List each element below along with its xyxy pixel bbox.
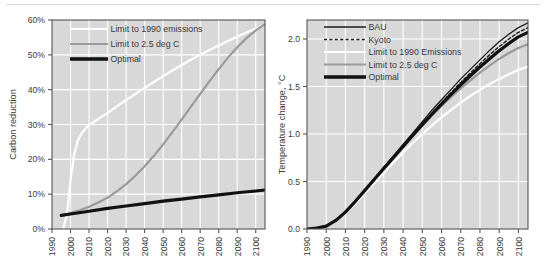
x-tick-label: 2060 <box>177 237 187 256</box>
x-tick-label: 2040 <box>398 237 408 256</box>
x-tick-label: 1990 <box>47 237 57 256</box>
x-tick-label: 2020 <box>360 237 370 256</box>
legend-label: BAU <box>369 22 387 32</box>
x-tick-label: 2070 <box>456 237 466 256</box>
y-tick-label: 0.5 <box>288 177 300 187</box>
carbon-reduction-plot: 1990200020102020203020402050206020702080… <box>0 0 280 277</box>
x-tick-label: 2060 <box>437 237 447 256</box>
y-tick-label: 2.0 <box>288 34 300 44</box>
y-tick-label: 0% <box>33 224 46 234</box>
y-tick-label: 20% <box>28 154 46 164</box>
x-tick-label: 2020 <box>103 237 113 256</box>
y-tick-label: 0.0 <box>288 224 300 234</box>
x-tick-label: 1990 <box>302 237 312 256</box>
x-tick-label: 2010 <box>84 237 94 256</box>
x-tick-label: 2100 <box>251 237 261 256</box>
y-tick-label: 40% <box>28 85 46 95</box>
legend-label: Optimal <box>369 72 399 82</box>
x-tick-label: 2080 <box>475 237 485 256</box>
x-tick-label: 2030 <box>121 237 131 256</box>
temperature-change-plot: 1990200020102020203020402050206020702080… <box>272 0 547 277</box>
x-tick-label: 2080 <box>214 237 224 256</box>
x-tick-label: 2070 <box>196 237 206 256</box>
x-tick-label: 2010 <box>341 237 351 256</box>
x-tick-label: 2100 <box>514 237 524 256</box>
chart-temperature-change: 1990200020102020203020402050206020702080… <box>272 0 547 277</box>
y-tick-label: 30% <box>28 120 46 130</box>
x-tick-label: 2030 <box>379 237 389 256</box>
legend-label: Kyoto <box>369 35 392 45</box>
x-tick-label: 2090 <box>233 237 243 256</box>
y-tick-label: 60% <box>28 15 46 25</box>
x-tick-label: 2040 <box>140 237 150 256</box>
x-tick-label: 2000 <box>322 237 332 256</box>
x-tick-label: 2000 <box>66 237 76 256</box>
y-tick-label: 10% <box>28 189 46 199</box>
y-tick-label: 1.5 <box>288 82 300 92</box>
y-axis-title: Carbon reduction <box>8 89 18 159</box>
legend-label: Limit to 1990 Emissions <box>369 47 462 57</box>
y-tick-label: 1.0 <box>288 129 300 139</box>
x-tick-label: 2090 <box>495 237 505 256</box>
legend-label: Limit to 1990 emissions <box>111 24 204 34</box>
legend-label: Limit to 2.5 deg C <box>111 39 181 49</box>
x-tick-label: 2050 <box>159 237 169 256</box>
x-tick-label: 2050 <box>418 237 428 256</box>
y-axis-title: Temperature change, °C <box>277 74 287 174</box>
y-tick-label: 50% <box>28 50 46 60</box>
figure-container: 1990200020102020203020402050206020702080… <box>0 0 547 277</box>
legend-label: Optimal <box>111 54 141 64</box>
chart-carbon-reduction: 1990200020102020203020402050206020702080… <box>0 0 280 277</box>
legend-label: Limit to 2.5 deg C <box>369 60 439 70</box>
